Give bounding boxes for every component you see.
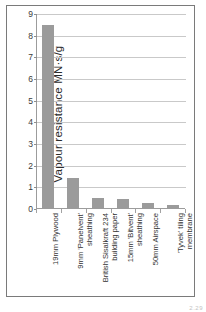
bar[interactable]: [117, 199, 129, 209]
y-tick-label: 0: [28, 205, 33, 214]
x-axis-label: British Sisalkraft 234 building paper: [102, 213, 119, 293]
y-tick-label: 3: [28, 140, 33, 149]
x-axis-label: 'Tyvek' tiling membrane: [177, 213, 194, 293]
bar-slot: [135, 14, 160, 209]
x-axis-label: 19mm Plywood: [52, 213, 61, 293]
figure-container: Vapour resistance MN·s/g 0123456789 19mm…: [0, 0, 206, 312]
bar-series: [36, 14, 185, 209]
x-axis-label: 50mm Airspace: [152, 213, 161, 293]
bar-slot: [160, 14, 185, 209]
bar-slot: [61, 14, 86, 209]
bar[interactable]: [42, 25, 54, 209]
bar[interactable]: [67, 178, 79, 209]
y-tick-label: 5: [28, 96, 33, 105]
bar-slot: [86, 14, 111, 209]
x-axis-label: 9mm 'Panelvent' sheathing: [77, 213, 94, 293]
y-tick-label: 7: [28, 53, 33, 62]
y-tick-label: 9: [28, 10, 33, 19]
page-corner-mark: 2.29: [189, 305, 203, 311]
bar-slot: [36, 14, 61, 209]
y-tick-label: 1: [28, 183, 33, 192]
y-tick-label: 4: [28, 118, 33, 127]
y-tick-label: 8: [28, 31, 33, 40]
bar-slot: [111, 14, 136, 209]
y-tick-label: 6: [28, 75, 33, 84]
x-axis-label: 15mm 'Bitvent' sheathing: [127, 213, 144, 293]
y-tick-label: 2: [28, 161, 33, 170]
x-axis-labels: 19mm Plywood9mm 'Panelvent' sheathingBri…: [36, 213, 185, 293]
bar[interactable]: [92, 198, 104, 209]
